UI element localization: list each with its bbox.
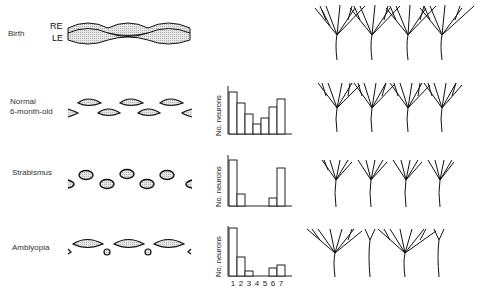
arbors-normal [318, 83, 462, 132]
arbors-amblyopia [307, 229, 444, 277]
x-tick-6: 6 [269, 279, 277, 288]
x-tick-2: 2 [237, 279, 245, 288]
x-tick-7: 7 [277, 279, 285, 288]
histogram-normal [228, 86, 292, 134]
histogram-strabismus [228, 155, 292, 206]
arbors-strabismus [322, 160, 454, 207]
ocular-dominance-diagram [0, 0, 483, 299]
arbors-birth [315, 5, 474, 60]
x-tick-1: 1 [229, 279, 237, 288]
birth-ocular-bands [68, 23, 190, 44]
x-tick-4: 4 [253, 279, 261, 288]
normal-ocular-columns [68, 99, 192, 117]
histogram-amblyopia [228, 226, 292, 276]
histogram-ylabel-normal: No. neurons [214, 95, 223, 136]
histogram-ylabel-amblyopia: No. neurons [214, 236, 223, 277]
x-tick-5: 5 [261, 279, 269, 288]
histogram-ylabel-strabismus: No. neurons [214, 166, 223, 207]
x-tick-3: 3 [245, 279, 253, 288]
amblyopia-ocular-columns [68, 240, 191, 256]
strabismus-ocular-columns [68, 170, 192, 189]
